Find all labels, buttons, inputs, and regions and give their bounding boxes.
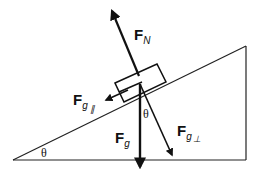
- force-angle-theta: θ: [143, 107, 149, 121]
- incline-diagram: FN Fg∥ Fg Fg⊥ θ θ: [0, 0, 257, 177]
- gravity-label: Fg: [115, 129, 130, 149]
- normal-force-label: FN: [134, 26, 151, 46]
- normal-force-arrow: [112, 11, 139, 76]
- gravity-parallel-label: Fg∥: [73, 91, 96, 114]
- incline-angle-theta: θ: [41, 146, 47, 160]
- gravity-perpendicular-label: Fg⊥: [177, 122, 201, 144]
